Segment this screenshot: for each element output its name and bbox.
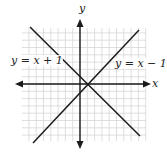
x-axis-left-arrow-icon — [15, 81, 23, 88]
line-label-y-equals-x-plus-1: y = x + 1 — [11, 55, 63, 66]
x-axis-right-arrow-icon — [143, 81, 151, 88]
line-label-y-equals-x-minus-1: y = x − 1 — [115, 58, 167, 69]
line-ascending — [33, 30, 139, 143]
coordinate-plane — [0, 0, 167, 156]
x-axis-label: x — [152, 78, 158, 89]
x-axis — [15, 81, 151, 88]
y-axis-down-arrow-icon — [77, 141, 84, 149]
y-axis-up-arrow-icon — [77, 19, 84, 27]
y-axis-label: y — [79, 3, 85, 14]
